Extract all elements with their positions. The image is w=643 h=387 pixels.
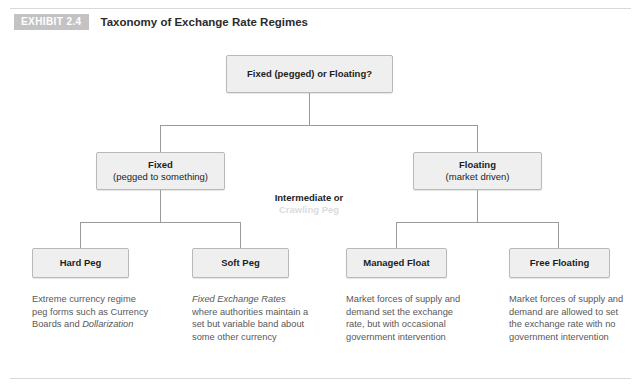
node-floating-title: Floating bbox=[459, 159, 496, 171]
connector-fixed-bus bbox=[80, 222, 241, 223]
figure-divider-bottom bbox=[10, 378, 631, 379]
node-hard-peg-title: Hard Peg bbox=[60, 257, 102, 269]
description-managed-float-body: Market forces of supply and demand set t… bbox=[346, 294, 460, 342]
connector-to-free-floating bbox=[558, 222, 559, 248]
exhibit-number-badge: EXHIBIT 2.4 bbox=[14, 14, 89, 30]
description-hard-peg: Extreme currency regime peg forms such a… bbox=[32, 293, 150, 331]
connector-floating-bus bbox=[396, 222, 558, 223]
node-free-floating: Free Floating bbox=[509, 248, 610, 278]
node-managed-float: Managed Float bbox=[346, 248, 447, 278]
node-floating-subtitle: (market driven) bbox=[446, 171, 510, 183]
description-soft-peg: Fixed Exchange Rates where authorities m… bbox=[192, 293, 310, 343]
connector-root-stem bbox=[309, 93, 310, 125]
description-soft-peg-lead: Fixed Exchange Rates bbox=[192, 294, 286, 304]
node-soft-peg-title: Soft Peg bbox=[221, 257, 260, 269]
intermediate-annotation-line2: Crawling Peg bbox=[259, 204, 359, 216]
connector-level2-bus bbox=[160, 125, 477, 126]
connector-to-fixed bbox=[160, 125, 161, 152]
connector-to-managed-float bbox=[396, 222, 397, 248]
intermediate-annotation-line1: Intermediate or bbox=[259, 192, 359, 204]
node-hard-peg: Hard Peg bbox=[32, 248, 129, 278]
exhibit-title: Taxonomy of Exchange Rate Regimes bbox=[101, 16, 308, 28]
description-managed-float: Market forces of supply and demand set t… bbox=[346, 293, 464, 343]
node-root: Fixed (pegged) or Floating? bbox=[226, 55, 393, 93]
exhibit-header: EXHIBIT 2.4 Taxonomy of Exchange Rate Re… bbox=[14, 14, 308, 30]
exhibit-figure: EXHIBIT 2.4 Taxonomy of Exchange Rate Re… bbox=[0, 0, 643, 387]
description-hard-peg-emphasis: Dollarization bbox=[82, 319, 133, 329]
connector-to-soft-peg bbox=[240, 222, 241, 248]
description-free-floating: Market forces of supply and demand are a… bbox=[509, 293, 631, 343]
node-free-floating-title: Free Floating bbox=[530, 257, 590, 269]
description-soft-peg-body: where authorities maintain a set but var… bbox=[192, 307, 308, 342]
node-soft-peg: Soft Peg bbox=[192, 248, 289, 278]
node-floating: Floating (market driven) bbox=[413, 152, 542, 190]
connector-to-hard-peg bbox=[80, 222, 81, 248]
node-fixed: Fixed (pegged to something) bbox=[96, 152, 225, 190]
node-fixed-title: Fixed bbox=[148, 159, 173, 171]
node-root-label: Fixed (pegged) or Floating? bbox=[247, 68, 372, 80]
connector-to-floating bbox=[477, 125, 478, 152]
connector-floating-stem bbox=[477, 190, 478, 222]
node-managed-float-title: Managed Float bbox=[363, 257, 430, 269]
intermediate-annotation: Intermediate or Crawling Peg bbox=[259, 192, 359, 216]
header-divider-top bbox=[10, 8, 631, 9]
connector-fixed-stem bbox=[160, 190, 161, 222]
description-free-floating-body: Market forces of supply and demand are a… bbox=[509, 294, 623, 342]
node-fixed-subtitle: (pegged to something) bbox=[113, 171, 208, 183]
